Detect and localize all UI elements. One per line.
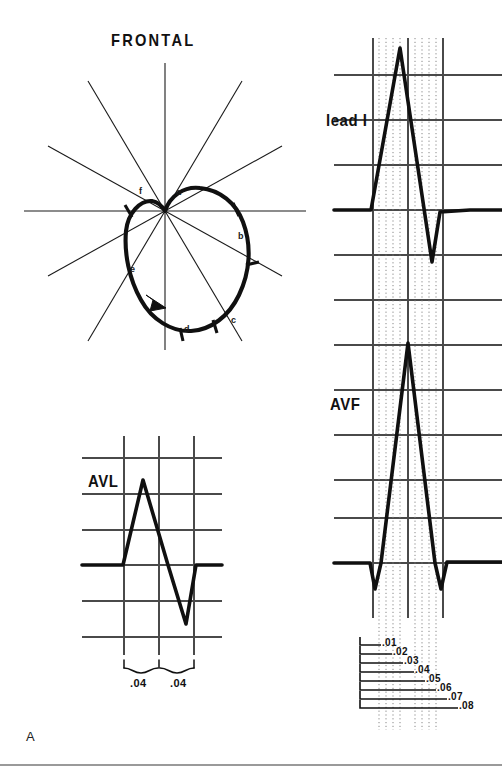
loop-point-e: e	[130, 265, 135, 274]
loop-point-b: b	[238, 232, 244, 241]
page-title: FRONTAL	[111, 32, 195, 49]
vectorcardiogram-figure: FRONTAL lead I AVF AVL a b c d e f .04 .…	[0, 0, 502, 773]
loop-point-f: f	[139, 187, 142, 196]
loop-point-d: d	[184, 325, 190, 334]
lead-label-avf: AVF	[330, 396, 360, 413]
timing-label-08: .08	[459, 701, 474, 711]
loop-point-a: a	[176, 188, 181, 197]
loop-point-c: c	[231, 316, 236, 325]
bottom-rule	[0, 0, 502, 773]
avl-brace-label-2: .04	[170, 678, 187, 689]
figure-panel-letter: A	[26, 730, 35, 743]
avl-brace-label-1: .04	[130, 678, 147, 689]
lead-label-lead-i: lead I	[326, 112, 367, 129]
lead-label-avl: AVL	[88, 473, 118, 490]
